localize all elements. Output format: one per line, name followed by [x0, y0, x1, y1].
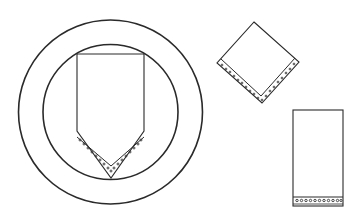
napkin-pointed-outline	[77, 54, 144, 178]
napkin-rectangle-dotted-border	[296, 199, 342, 201]
napkin-pointed	[77, 54, 144, 178]
plate-inner-rim	[43, 45, 178, 180]
napkin-pointed-dotted-border	[79, 139, 142, 172]
napkin-diamond	[217, 22, 299, 103]
napkin-diamond-outline	[217, 22, 299, 103]
napkin-rectangle	[293, 110, 343, 206]
napkin-rectangle-outline	[293, 110, 343, 206]
napkin-pointed-border-line	[77, 137, 144, 166]
napkin-fold-diagram	[0, 0, 362, 220]
